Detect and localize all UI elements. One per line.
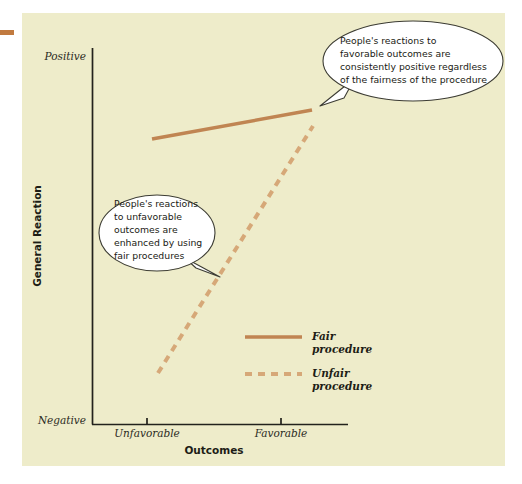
callout-favorable-line-4: of the fairness of the procedure (340, 74, 487, 85)
y-tick-label-positive: Positive (44, 50, 86, 62)
legend-label-unfair-line1: Unfair (312, 367, 351, 379)
callout-unfavorable-line-4: enhanced by using (114, 237, 202, 248)
callout-favorable-line-1: People's reactions to (340, 35, 437, 46)
callout-unfavorable-line-1: People's reactions (114, 198, 198, 209)
callout-unfavorable-line-3: outcomes are (114, 224, 178, 235)
chart-canvas: Unfavorable Favorable Positive Negative … (0, 0, 522, 484)
callout-favorable-line-3: consistently positive regardless (340, 61, 487, 72)
series-line-fair-procedure (152, 110, 312, 139)
callout-unfavorable-line-2: to unfavorable (114, 211, 182, 222)
legend-label-unfair-line2: procedure (312, 380, 372, 392)
legend-label-fair-line2: procedure (312, 343, 372, 355)
x-tick-label-favorable: Favorable (254, 427, 308, 439)
callout-unfavorable-outcomes: People's reactions to unfavorable outcom… (99, 195, 220, 277)
callout-favorable-outcomes: People's reactions to favorable outcomes… (320, 21, 503, 106)
legend-label-fair-line1: Fair (311, 330, 337, 342)
callout-unfavorable-line-5: fair procedures (114, 250, 185, 261)
legend-item-unfair-procedure: Unfair procedure (245, 367, 372, 392)
x-tick-label-unfavorable: Unfavorable (114, 427, 180, 439)
y-tick-label-negative: Negative (37, 414, 86, 426)
x-axis-title: Outcomes (184, 444, 243, 456)
legend-item-fair-procedure: Fair procedure (245, 330, 372, 355)
figure-root: Unfavorable Favorable Positive Negative … (0, 0, 522, 484)
chart-legend: Fair procedure Unfair procedure (245, 330, 372, 392)
callout-favorable-line-2: favorable outcomes are (340, 48, 451, 59)
y-axis-title: General Reaction (31, 185, 43, 287)
